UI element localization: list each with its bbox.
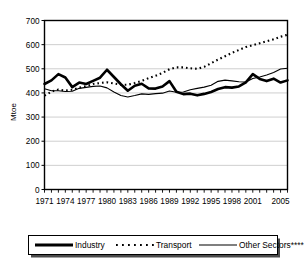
y-tick-label: 500 [26,65,40,74]
y-axis-tick-labels: 0100200300400500600700 [26,17,40,195]
y-tick-label: 0 [35,186,40,195]
chart-figure: 0100200300400500600700 19711974197719801… [0,0,304,271]
x-tick-label: 1998 [223,197,242,206]
y-tick-label: 100 [26,161,40,170]
x-tick-label: 1986 [140,197,159,206]
transport-line [45,35,288,96]
x-tick-label: 1971 [35,197,54,206]
x-axis-tick-labels: 1971197419771980198319861989199219951998… [35,197,290,206]
y-tick-label: 400 [26,89,40,98]
series-industry [45,70,288,96]
y-tick-label: 300 [26,113,40,122]
legend-label-other-sectors: Other Sectors**** [239,240,304,250]
legend-label-transport: Transport [156,240,192,250]
y-tick-label: 600 [26,41,40,50]
y-tick-label: 700 [26,17,40,26]
x-tick-label: 2001 [244,197,263,206]
industry-line [45,70,288,96]
y-axis-title: Mtoe [9,103,18,121]
x-tick-label: 1992 [181,197,200,206]
line-chart-svg: 0100200300400500600700 19711974197719801… [0,0,304,271]
x-tick-label: 1974 [56,197,75,206]
legend-box: Industry Transport Other Sectors**** [29,236,305,258]
series-transport [45,35,288,96]
x-tick-label: 1983 [119,197,138,206]
x-tick-label: 1977 [77,197,96,206]
gridlines [45,21,288,166]
legend-label-industry: Industry [75,240,106,250]
x-tick-label: 2005 [271,197,290,206]
y-tick-label: 200 [26,137,40,146]
y-axis-title-group: Mtoe [9,103,18,121]
x-tick-label: 1995 [202,197,221,206]
x-tick-label: 1980 [98,197,117,206]
x-tick-label: 1989 [160,197,179,206]
